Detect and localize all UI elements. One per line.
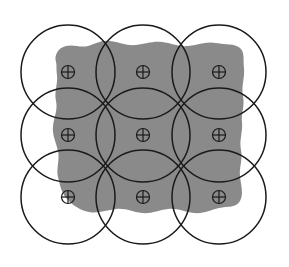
marker-r2-c1 xyxy=(62,129,75,142)
marker-r2-c2 xyxy=(137,129,150,142)
figure-canvas xyxy=(0,0,289,267)
coverage-diagram xyxy=(0,0,289,267)
marker-r3-c2 xyxy=(137,191,150,204)
marker-r2-c3 xyxy=(213,129,226,142)
marker-r3-c1 xyxy=(62,191,75,204)
marker-r3-c3 xyxy=(213,191,226,204)
marker-r1-c3 xyxy=(213,66,226,79)
marker-r1-c2 xyxy=(137,66,150,79)
marker-r1-c1 xyxy=(62,66,75,79)
